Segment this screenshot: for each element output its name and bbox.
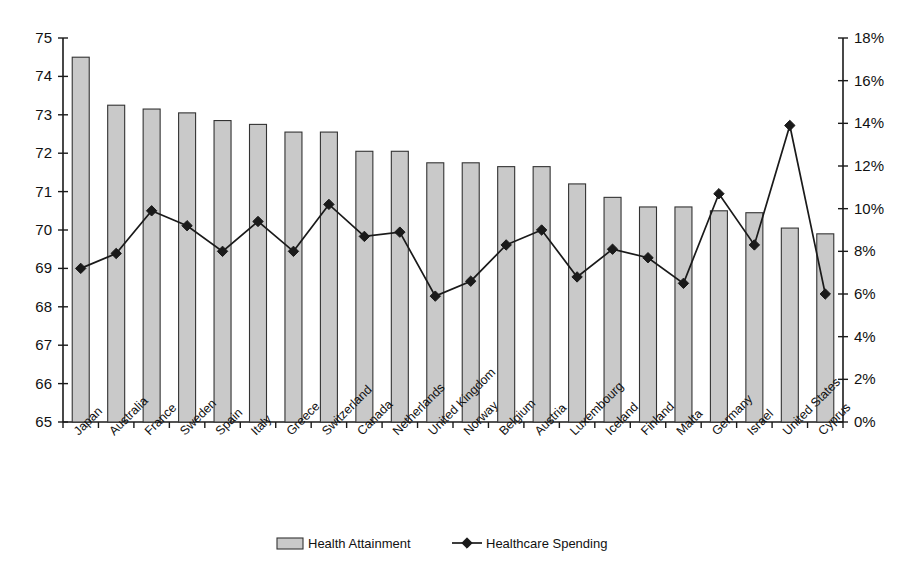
left-axis-tick-label: 75: [35, 29, 52, 46]
left-axis-tick-label: 72: [35, 144, 52, 161]
right-axis-tick-label: 12%: [854, 157, 884, 174]
bar: [640, 207, 657, 422]
right-axis-tick-label: 14%: [854, 114, 884, 131]
right-axis-tick-label: 6%: [854, 285, 876, 302]
bar: [533, 167, 550, 422]
bar: [391, 151, 408, 422]
right-axis-tick-label: 18%: [854, 29, 884, 46]
bar: [569, 184, 586, 422]
right-axis-tick-label: 2%: [854, 370, 876, 387]
left-axis-tick-label: 67: [35, 336, 52, 353]
left-axis-tick-label: 74: [35, 67, 52, 84]
bar: [356, 151, 373, 422]
left-axis-tick-label: 70: [35, 221, 52, 238]
right-axis-tick-label: 8%: [854, 242, 876, 259]
bar: [143, 109, 160, 422]
left-axis-tick-label: 69: [35, 259, 52, 276]
bar: [710, 211, 727, 422]
right-axis-tick-label: 16%: [854, 72, 884, 89]
bar: [498, 167, 515, 422]
bar: [108, 105, 125, 422]
bar: [250, 124, 267, 422]
bar: [214, 121, 231, 422]
left-axis-tick-label: 73: [35, 106, 52, 123]
right-axis-tick-label: 0%: [854, 413, 876, 430]
left-axis-tick-label: 65: [35, 413, 52, 430]
right-axis-tick-label: 10%: [854, 200, 884, 217]
bar: [179, 113, 196, 422]
bar: [285, 132, 302, 422]
right-axis-tick-label: 4%: [854, 328, 876, 345]
legend-label-healthcare-spending: Healthcare Spending: [486, 536, 607, 551]
chart-container: 6566676869707172737475 0%2%4%6%8%10%12%1…: [0, 0, 913, 570]
combo-chart: 6566676869707172737475 0%2%4%6%8%10%12%1…: [0, 0, 913, 570]
bar: [72, 57, 89, 422]
left-axis-tick-label: 68: [35, 298, 52, 315]
legend-bar-swatch: [277, 538, 303, 549]
bar: [320, 132, 337, 422]
chart-background: [0, 0, 913, 570]
legend-label-health-attainment: Health Attainment: [308, 536, 411, 551]
left-axis-tick-label: 66: [35, 375, 52, 392]
bar: [781, 228, 798, 422]
left-axis-tick-label: 71: [35, 183, 52, 200]
bar: [675, 207, 692, 422]
